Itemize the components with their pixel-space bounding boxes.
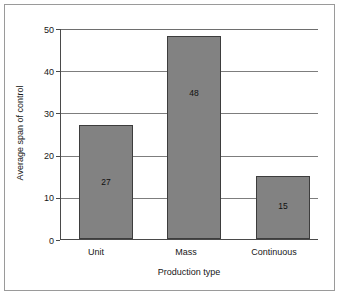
- gridline-50: [61, 29, 318, 30]
- plot-area: 27 48 15: [60, 29, 318, 240]
- bar-unit[interactable]: 27: [79, 125, 133, 239]
- bar-mass[interactable]: 48: [167, 36, 221, 239]
- bar-value-label: 48: [168, 89, 220, 98]
- x-tick-label-unit: Unit: [58, 248, 134, 257]
- bar-continuous[interactable]: 15: [256, 176, 310, 239]
- x-tick-label-mass: Mass: [148, 248, 224, 257]
- chart-page: Average span of control 50 40 30 20 10 0…: [0, 0, 343, 300]
- bar-value-label: 15: [257, 202, 309, 211]
- y-axis-title: Average span of control: [15, 53, 25, 213]
- bar-value-label: 27: [80, 178, 132, 187]
- x-tick-label-continuous: Continuous: [236, 248, 312, 257]
- x-axis-title: Production type: [60, 267, 318, 277]
